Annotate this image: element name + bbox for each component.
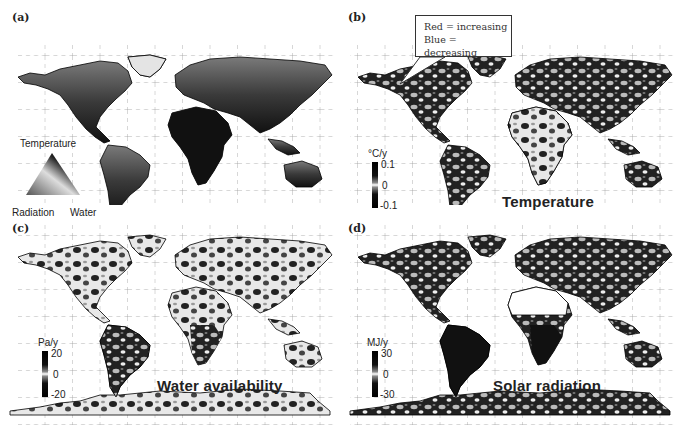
colorbar-max: 30: [381, 348, 392, 359]
panel-b: (b) Red = increasing Blue = decreasing °…: [340, 0, 674, 205]
colorbar: [372, 162, 378, 208]
colorbar-min: -30: [380, 389, 394, 400]
callout-decreasing-text: Blue = decreasing: [424, 33, 511, 59]
colorbar-unit: °C/y: [368, 148, 387, 159]
panel-c: (c) Pa/y 20 0 -20 Water availability: [0, 220, 334, 425]
colorbar-unit: MJ/y: [367, 337, 388, 348]
colorbar-min: -20: [51, 389, 65, 400]
colorbar-mid: 0: [53, 369, 59, 380]
world-map-combined-limiting-factors: [0, 0, 334, 205]
legend-temperature-label: Temperature: [20, 138, 76, 149]
colorbar: [42, 351, 48, 397]
panel-title-solar-radiation: Solar radiation: [493, 377, 601, 394]
panel-title-temperature: Temperature: [502, 193, 594, 210]
colorbar-max: 0.1: [381, 159, 395, 170]
colorbar-max: 20: [51, 348, 62, 359]
legend-water-label: Water: [70, 207, 96, 218]
panel-title-water-availability: Water availability: [157, 377, 283, 394]
colorbar-mid: 0: [383, 369, 389, 380]
colorbar-mid: 0: [382, 180, 388, 191]
panel-d: (d) MJ/y 30 0 -30 Solar radiation: [340, 220, 674, 425]
callout-increasing-text: Red = increasing: [424, 20, 511, 33]
colorbar-unit: Pa/y: [38, 337, 58, 348]
panel-a: (a) Temperature Radiation Water: [0, 0, 334, 205]
color-key-callout: Red = increasing Blue = decreasing: [415, 15, 512, 57]
colorbar-min: -0.1: [380, 200, 397, 211]
legend-radiation-label: Radiation: [12, 207, 54, 218]
colorbar: [372, 351, 378, 397]
